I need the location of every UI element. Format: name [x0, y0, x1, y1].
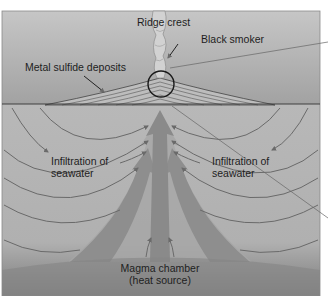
magma-line1: Magma chamber — [110, 262, 210, 274]
label-metal-sulfide-deposits: Metal sulfide deposits — [25, 61, 126, 73]
label-ridge-crest: Ridge crest — [137, 16, 190, 28]
infiltration-right-line1: Infiltration of — [212, 155, 269, 167]
diagram-canvas — [0, 0, 329, 296]
label-black-smoker: Black smoker — [201, 33, 264, 45]
infiltration-left-line2: seawater — [51, 167, 94, 179]
magma-line2: (heat source) — [110, 274, 210, 286]
infiltration-left-line1: Infiltration of — [51, 155, 108, 167]
infiltration-right-line2: seawater — [212, 167, 255, 179]
hydrothermal-diagram: Ridge crest Black smoker Metal sulfide d… — [0, 0, 329, 296]
